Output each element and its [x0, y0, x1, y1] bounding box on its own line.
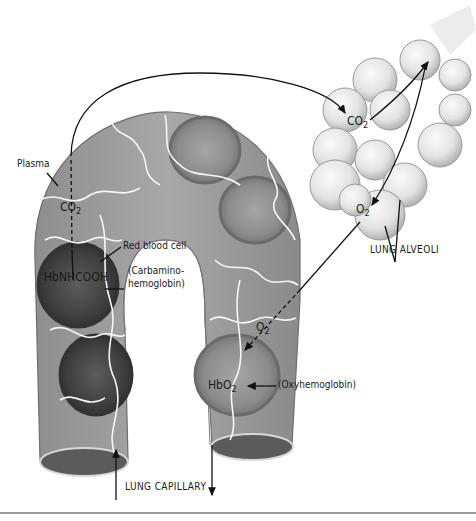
lung-alveoli-cluster — [310, 5, 476, 240]
carbamino-name-line2: hemoglobin) — [128, 278, 185, 289]
lung-capillary-label: LUNG CAPILLARY — [125, 481, 206, 492]
co2-alveoli-label: CO2 — [347, 114, 368, 130]
lung-alveoli-label: LUNG ALVEOLI — [370, 244, 439, 255]
oxyhemoglobin-formula-label: HbO2 — [208, 378, 237, 394]
co2-capillary-text: CO — [60, 200, 76, 214]
o2-alveoli-text: O — [356, 202, 365, 216]
co2-alveoli-text: CO — [347, 114, 363, 128]
carbamino-formula-label: HbNHCOOH — [44, 270, 108, 284]
o2-alveoli-label: O2 — [356, 202, 370, 218]
o2-capillary-label: O2 — [256, 320, 270, 336]
bottom-divider — [0, 512, 476, 514]
co2-alveoli-subscript: 2 — [363, 120, 368, 130]
red-blood-cell-label: Red blood cell — [123, 240, 186, 251]
co2-capillary-subscript: 2 — [76, 206, 81, 216]
oxy-formula-subscript: 2 — [231, 384, 236, 394]
diagram-canvas — [0, 0, 476, 521]
oxy-formula-text: HbO — [208, 378, 231, 392]
carbamino-name-line1: (Carbamino- — [128, 265, 184, 276]
oxyhemoglobin-name-label: (Oxyhemoglobin) — [278, 379, 356, 390]
plasma-label: Plasma — [17, 158, 49, 169]
o2-capillary-text: O — [256, 320, 265, 334]
co2-capillary-label: CO2 — [60, 200, 81, 216]
o2-capillary-subscript: 2 — [265, 326, 270, 336]
o2-alveoli-subscript: 2 — [365, 208, 370, 218]
